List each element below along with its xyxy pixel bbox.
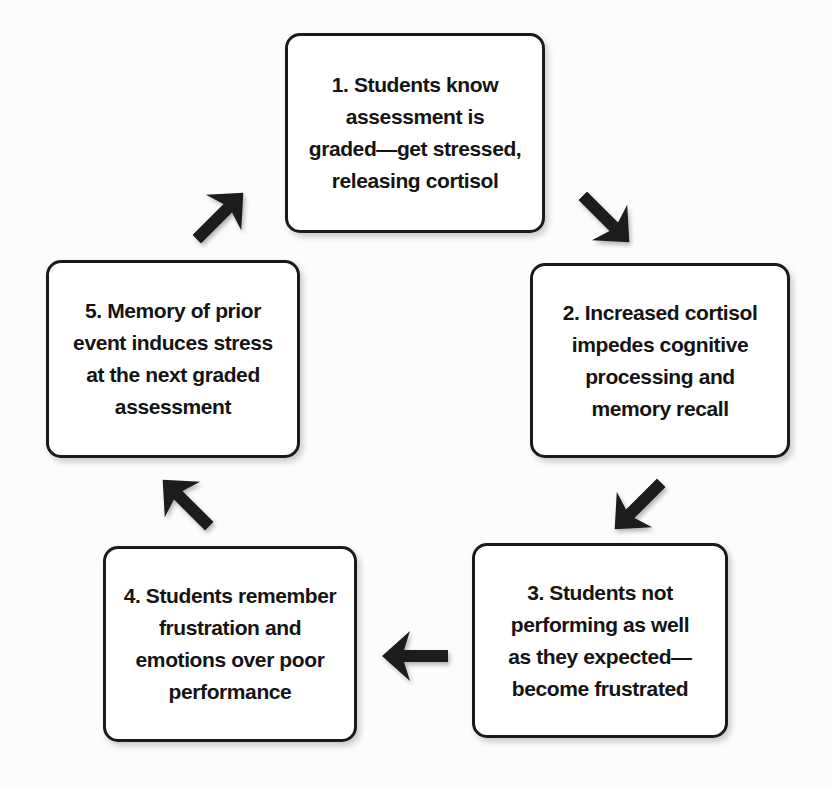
process-box-4: 4. Students remember frustration and emo… (103, 546, 357, 742)
arrow-up-left-icon (144, 461, 227, 544)
process-box-1-text: 1. Students know assessment is graded—ge… (309, 69, 522, 197)
arrow-1-to-2 (573, 193, 639, 245)
process-box-5-text: 5. Memory of prior event induces stress … (73, 295, 273, 423)
diagram-canvas: 1. Students know assessment is graded—ge… (0, 0, 833, 786)
process-box-3: 3. Students not performing as well as th… (472, 543, 728, 738)
process-box-1: 1. Students know assessment is graded—ge… (285, 33, 545, 233)
arrow-left-icon (382, 630, 448, 682)
process-box-2-text: 2. Increased cortisol impedes cognitive … (563, 297, 758, 425)
arrow-down-left-icon (596, 464, 679, 547)
arrow-4-to-5 (153, 477, 219, 529)
process-box-4-text: 4. Students remember frustration and emo… (124, 580, 337, 708)
arrow-2-to-3 (605, 480, 671, 532)
process-box-5: 5. Memory of prior event induces stress … (46, 260, 300, 458)
arrow-5-to-1 (187, 190, 253, 242)
arrow-up-right-icon (178, 174, 261, 257)
process-box-2: 2. Increased cortisol impedes cognitive … (530, 263, 790, 458)
arrow-3-to-4 (382, 630, 448, 682)
process-box-3-text: 3. Students not performing as well as th… (508, 577, 691, 705)
arrow-down-right-icon (564, 177, 647, 260)
